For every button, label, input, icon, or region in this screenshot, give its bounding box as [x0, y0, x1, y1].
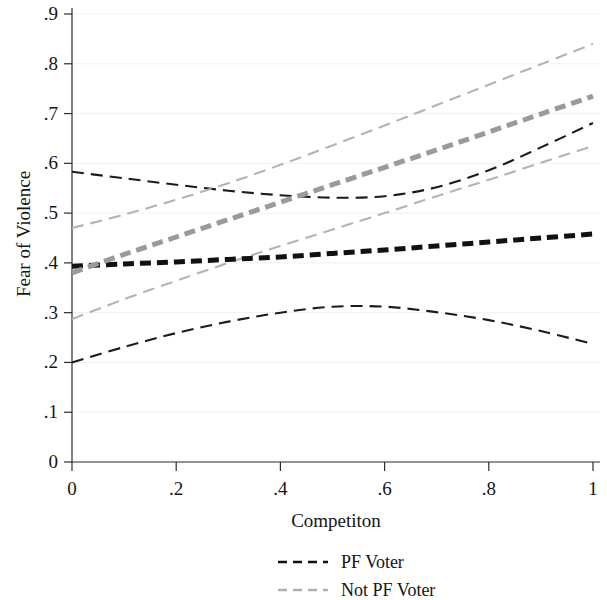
y-tick-label: .3 [44, 302, 58, 323]
x-tick-label: .4 [273, 478, 288, 499]
x-tick-label: .2 [169, 478, 183, 499]
y-tick-label: .7 [44, 103, 58, 124]
y-tick-label: .4 [44, 252, 59, 273]
legend-label-not-pf-voter: Not PF Voter [341, 580, 435, 600]
x-axis-title: Competiton [291, 510, 381, 531]
x-tick-label: .8 [482, 478, 496, 499]
y-tick-label: .2 [44, 351, 58, 372]
x-tick-label: 1 [588, 478, 598, 499]
y-tick-label: .5 [44, 202, 58, 223]
legend-label-pf-voter: PF Voter [341, 552, 404, 572]
y-axis-title: Fear of Violence [13, 171, 34, 297]
y-tick-label: 0 [49, 451, 59, 472]
y-tick-label: .9 [44, 3, 58, 24]
fear-of-violence-vs-competition-chart: 0.1.2.3.4.5.6.7.8.9 0.2.4.6.81 Fear of V… [0, 0, 607, 600]
x-tick-label: .6 [377, 478, 391, 499]
chart-figure: 0.1.2.3.4.5.6.7.8.9 0.2.4.6.81 Fear of V… [0, 0, 607, 600]
x-tick-label: 0 [67, 478, 77, 499]
y-tick-label: .1 [44, 401, 58, 422]
y-tick-label: .8 [44, 53, 58, 74]
y-tick-label: .6 [44, 152, 58, 173]
